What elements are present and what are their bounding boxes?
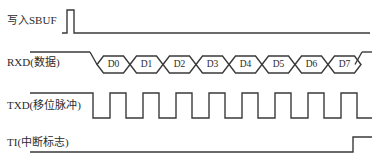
signal-label-write-sbuf: 写入SBUF (7, 14, 57, 26)
signal-label-rxd: RXD(数据) (7, 56, 60, 68)
rxd-bit-label: D2 (174, 59, 186, 69)
rxd-bus-body (97, 56, 361, 73)
txd-waveform (30, 93, 372, 118)
ti-waveform (30, 137, 372, 152)
rxd-bit-label: D3 (207, 59, 219, 69)
signal-rxd-data: D0 D1 D2 D3 D4 D5 D6 D7 (30, 52, 372, 73)
write-sbuf-waveform (62, 10, 370, 33)
signal-label-txd: TXD(移位脉冲) (7, 99, 81, 111)
signal-ti-flag (30, 137, 372, 152)
signal-label-ti: TI(中断标志) (7, 136, 69, 148)
rxd-bit-label: D0 (108, 59, 120, 69)
rxd-bit-label: D4 (240, 59, 252, 69)
signal-txd-clock (30, 93, 372, 118)
rxd-bit-label: D6 (306, 59, 318, 69)
signal-write-sbuf (62, 10, 370, 33)
rxd-bus-open (90, 52, 97, 65)
timing-diagram: D0 D1 D2 D3 D4 D5 D6 D7 写入SBUF RXD(数据) T… (0, 0, 377, 165)
rxd-bit-label: D7 (339, 59, 351, 69)
rxd-bit-label: D1 (141, 59, 153, 69)
rxd-bit-label: D5 (273, 59, 285, 69)
